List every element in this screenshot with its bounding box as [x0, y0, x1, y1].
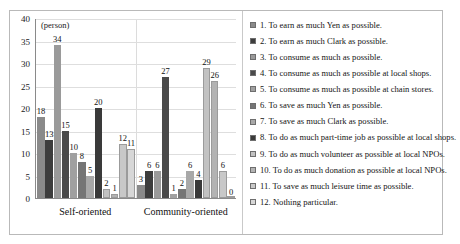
bar	[95, 108, 102, 198]
bar	[86, 176, 93, 199]
legend-item-label: 11. To save as much leisure time as poss…	[260, 182, 414, 191]
bar-value-label: 2	[104, 179, 108, 188]
legend-item-label: 1. To earn as much Yen as possible.	[260, 21, 382, 30]
bar-column: 11	[127, 19, 135, 198]
bar-value-label: 12	[119, 134, 128, 143]
bar-column: 12	[119, 19, 127, 198]
bar-value-label: 1	[113, 184, 117, 193]
bar-column: 1	[170, 19, 178, 198]
y-axis-tick-label: 15	[21, 127, 30, 136]
bar-column: 3	[137, 19, 145, 198]
legend-swatch-icon	[250, 183, 256, 189]
legend-item-label: 6. To save as much Yen as possible.	[260, 101, 382, 110]
legend-item-label: 12. Nothing particular.	[260, 198, 338, 207]
y-axis-tick-label: 40	[21, 15, 30, 24]
legend-swatch-icon	[250, 135, 256, 141]
bar-value-label: 10	[69, 143, 78, 152]
bar-column: 18	[37, 19, 45, 198]
bar-value-label: 27	[161, 67, 170, 76]
bar-value-label: 29	[202, 58, 211, 67]
bar	[145, 171, 152, 198]
legend-item-label: 3. To consume as much as possible.	[260, 53, 382, 62]
bar-value-label: 6	[221, 161, 225, 170]
legend-swatch-icon	[250, 119, 256, 125]
x-axis-category-label: Community-oriented	[144, 207, 228, 217]
bar	[195, 180, 202, 198]
legend-item[interactable]: 11. To save as much leisure time as poss…	[250, 178, 456, 194]
legend-item[interactable]: 3. To consume as much as possible.	[250, 49, 456, 65]
bar-value-label: 5	[88, 166, 92, 175]
bar-value-label: 13	[45, 130, 54, 139]
legend-item[interactable]: 10. To do as much donation as possible a…	[250, 162, 456, 178]
bar-value-label: 0	[229, 188, 233, 197]
legend-swatch-icon	[250, 86, 256, 92]
legend-swatch-icon	[250, 151, 256, 157]
legend-item-label: 4. To consume as much as possible at loc…	[260, 69, 431, 78]
bar-value-label: 15	[61, 121, 70, 130]
legend-item[interactable]: 6. To save as much Yen as possible.	[250, 97, 456, 113]
bar-group: 366271264292660	[136, 19, 236, 198]
bar	[45, 140, 52, 199]
legend-swatch-icon	[250, 103, 256, 109]
bar-column: 15	[61, 19, 69, 198]
bar-column: 2	[102, 19, 110, 198]
legend-swatch-icon	[250, 199, 256, 205]
y-axis-tick-label: 25	[21, 82, 30, 91]
y-axis-tick-labels: 0510152025303540	[10, 19, 33, 199]
bar	[54, 45, 61, 198]
bar-value-label: 11	[127, 139, 135, 148]
bar-value-label: 6	[188, 161, 192, 170]
bar	[78, 162, 85, 198]
legend-item[interactable]: 2. To earn as much Clark as possible.	[250, 33, 456, 49]
legend-swatch-icon	[250, 54, 256, 60]
legend-item[interactable]: 4. To consume as much as possible at loc…	[250, 65, 456, 81]
y-axis-tick-label: 5	[26, 172, 31, 181]
bar-value-label: 6	[155, 161, 159, 170]
bar	[178, 189, 185, 198]
legend-item-label: 10. To do as much donation as possible a…	[260, 166, 447, 175]
bar	[203, 68, 210, 199]
bar	[154, 171, 161, 198]
legend-swatch-icon	[250, 22, 256, 28]
bar	[162, 77, 169, 199]
legend-item[interactable]: 7. To save as much Clark as possible.	[250, 114, 456, 130]
bar-value-label: 20	[94, 98, 103, 107]
plot-area: (person) 1813341510852021121136627126429…	[35, 19, 236, 199]
x-axis-category-label: Self-oriented	[59, 207, 111, 217]
bar	[219, 171, 226, 198]
bar	[62, 131, 69, 199]
bar-value-label: 8	[80, 152, 84, 161]
legend-item[interactable]: 5. To consume as much as possible at cha…	[250, 81, 456, 97]
legend-item[interactable]: 8. To do as much part-time job as possib…	[250, 130, 456, 146]
x-axis-category-labels: Self-orientedCommunity-oriented	[35, 207, 236, 225]
legend-item-label: 8. To do as much part-time job as possib…	[260, 133, 456, 142]
bar-column: 8	[78, 19, 86, 198]
y-axis-tick-label: 35	[21, 37, 30, 46]
y-axis-tick-label: 30	[21, 60, 30, 69]
bar-value-label: 1	[172, 184, 176, 193]
bar-value-label: 26	[210, 71, 219, 80]
legend-swatch-icon	[250, 38, 256, 44]
bar-column: 13	[45, 19, 53, 198]
bar-column: 34	[53, 19, 61, 198]
bar-column: 29	[202, 19, 210, 198]
bar-column: 20	[94, 19, 102, 198]
bar-value-label: 18	[37, 107, 46, 116]
legend-item-label: 9. To do as much volunteer as possible a…	[260, 150, 445, 159]
bar-column: 2	[178, 19, 186, 198]
legend-item[interactable]: 9. To do as much volunteer as possible a…	[250, 146, 456, 162]
bar-column: 1	[111, 19, 119, 198]
legend-item[interactable]: 12. Nothing particular.	[250, 194, 456, 210]
bar-group: 18133415108520211211	[36, 19, 136, 198]
bar-column: 26	[211, 19, 219, 198]
legend-swatch-icon	[250, 167, 256, 173]
bar	[37, 117, 44, 198]
bar	[70, 153, 77, 198]
bar	[111, 194, 118, 199]
chart-frame: 0510152025303540 (person) 18133415108520…	[9, 10, 443, 235]
legend-item[interactable]: 1. To earn as much Yen as possible.	[250, 17, 456, 33]
bar-value-label: 4	[196, 170, 200, 179]
bar	[186, 171, 193, 198]
legend-item-label: 5. To consume as much as possible at cha…	[260, 85, 434, 94]
